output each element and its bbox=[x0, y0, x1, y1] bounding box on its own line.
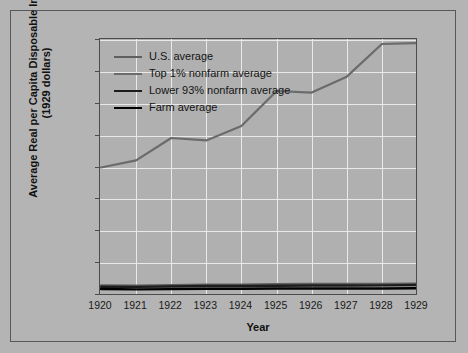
x-axis-tick-labels: 1920192119221923192419251926192719281929 bbox=[0, 299, 468, 319]
legend-label: Farm average bbox=[149, 99, 217, 116]
legend-label: Lower 93% nonfarm average bbox=[149, 82, 290, 99]
series-line bbox=[101, 288, 416, 289]
x-tick-label: 1927 bbox=[326, 299, 366, 311]
legend-item: Farm average bbox=[114, 99, 290, 116]
x-tick-label: 1926 bbox=[291, 299, 331, 311]
x-tick-label: 1929 bbox=[396, 299, 436, 311]
legend-label: Top 1% nonfarm average bbox=[149, 65, 272, 82]
legend-swatch-icon bbox=[114, 73, 142, 75]
x-tick-label: 1923 bbox=[185, 299, 225, 311]
x-tick-label: 1921 bbox=[115, 299, 155, 311]
legend-label: U.S. average bbox=[149, 48, 213, 65]
legend-swatch-icon bbox=[114, 56, 142, 58]
legend-swatch-icon bbox=[114, 107, 142, 109]
legend-item: U.S. average bbox=[114, 48, 290, 65]
x-tick-label: 1920 bbox=[80, 299, 120, 311]
x-tick-label: 1924 bbox=[220, 299, 260, 311]
chart-figure: Average Real per Capita Disposable Incom… bbox=[0, 0, 468, 353]
x-tick-label: 1928 bbox=[361, 299, 401, 311]
x-tick-label: 1925 bbox=[256, 299, 296, 311]
x-axis-title: Year bbox=[99, 321, 417, 333]
legend-item: Lower 93% nonfarm average bbox=[114, 82, 290, 99]
chart-legend: U.S. averageTop 1% nonfarm averageLower … bbox=[114, 48, 290, 116]
x-tick-label: 1922 bbox=[150, 299, 190, 311]
plot-area: U.S. averageTop 1% nonfarm averageLower … bbox=[99, 38, 417, 295]
legend-swatch-icon bbox=[114, 90, 142, 92]
legend-item: Top 1% nonfarm average bbox=[114, 65, 290, 82]
